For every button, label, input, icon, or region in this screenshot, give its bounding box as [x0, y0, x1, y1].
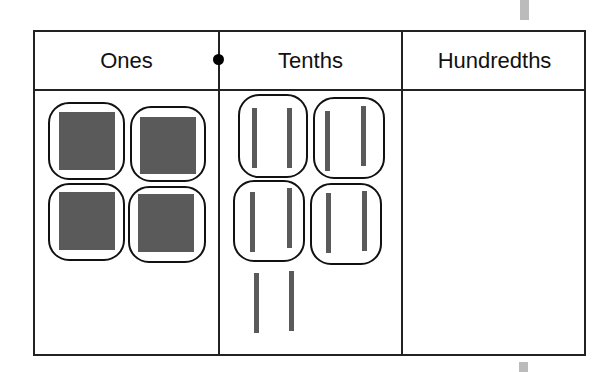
blocks-layer	[0, 0, 609, 372]
tenths-rods	[250, 106, 367, 333]
